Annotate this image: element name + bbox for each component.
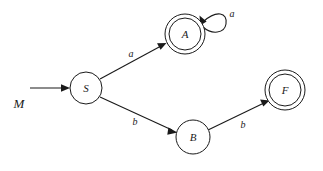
edge-label-self-loop-a: a [230,8,235,19]
start-arrow [30,84,70,92]
state-a-label: A [181,28,189,40]
state-s-label: S [83,82,89,94]
edge-label-s-to-a: a [129,48,134,59]
automaton-canvas: M a b b a S [0,0,323,171]
edge-s-to-a-arrowhead [157,43,167,50]
automaton-diagram: M a b b a S [0,0,323,171]
state-a[interactable]: A [165,14,205,54]
edge-s-to-a: a [100,43,167,79]
state-b[interactable]: B [176,120,210,154]
state-f-label: F [281,84,289,96]
state-f[interactable]: F [265,70,305,110]
state-b-label: B [190,131,197,143]
state-s[interactable]: S [70,72,102,104]
edge-s-to-b: b [100,97,178,135]
self-loop-a-path [203,14,226,32]
edge-label-s-to-b: b [133,116,138,127]
edge-label-b-to-f: b [241,119,246,130]
edge-b-to-f: b [208,100,270,130]
machine-label: M [13,96,26,111]
self-loop-a: a [200,8,235,33]
start-arrow-head [61,84,70,92]
edge-b-to-f-line [208,103,264,130]
